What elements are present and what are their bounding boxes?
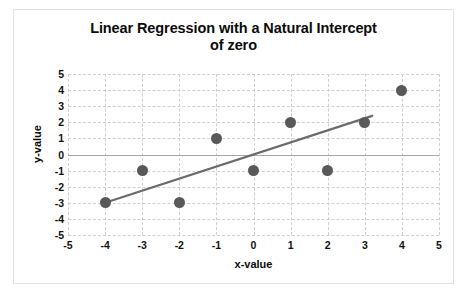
y-tick-label: -4 [38, 213, 64, 224]
x-tick-label: 0 [239, 240, 269, 251]
x-axis-label: x-value [68, 258, 439, 270]
y-tick-label: -1 [38, 165, 64, 176]
y-tick-label: 3 [38, 101, 64, 112]
y-tick-label: -3 [38, 197, 64, 208]
x-tick-label: -2 [164, 240, 194, 251]
x-tick-label: 4 [387, 240, 417, 251]
chart-title-line-1: Linear Regression with a Natural Interce… [14, 20, 453, 37]
x-tick-label: -3 [127, 240, 157, 251]
gridline-vertical [439, 74, 440, 235]
y-tick-label: 5 [38, 69, 64, 80]
data-point [211, 133, 222, 144]
y-tick-label: 1 [38, 133, 64, 144]
chart-title: Linear Regression with a Natural Interce… [14, 20, 453, 54]
data-point [137, 165, 148, 176]
y-tick-label: 2 [38, 117, 64, 128]
y-tick-label: 4 [38, 85, 64, 96]
data-point [100, 197, 111, 208]
chart-container: Linear Regression with a Natural Interce… [13, 9, 454, 284]
y-tick-label: -2 [38, 181, 64, 192]
x-tick-label: -1 [201, 240, 231, 251]
y-tick-label: 0 [38, 149, 64, 160]
data-point [396, 85, 407, 96]
x-tick-label: 3 [350, 240, 380, 251]
plot-area [68, 74, 439, 235]
x-tick-label: 5 [424, 240, 454, 251]
x-tick-label: 1 [276, 240, 306, 251]
gridline-horizontal [68, 235, 439, 236]
y-tick-label: -5 [38, 230, 64, 241]
regression-line [68, 74, 439, 235]
chart-title-line-2: of zero [14, 37, 453, 54]
x-tick-label: -4 [90, 240, 120, 251]
y-axis-tick-labels: 543210-1-2-3-4-5 [38, 74, 64, 235]
x-tick-label: 2 [313, 240, 343, 251]
x-axis-tick-labels: -5-4-3-2-1012345 [68, 240, 439, 254]
data-point [285, 117, 296, 128]
x-tick-label: -5 [53, 240, 83, 251]
